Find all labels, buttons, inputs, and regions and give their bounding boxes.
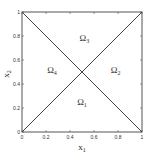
y-tick-label: 1 bbox=[17, 9, 20, 15]
y-tick-label: 0.4 bbox=[13, 81, 20, 87]
x-tick-label: 0.6 bbox=[91, 134, 98, 140]
y-axis-label-sub: 2 bbox=[6, 70, 12, 73]
x-axis-label: x1 bbox=[78, 142, 86, 153]
x-axis-label-sub: 1 bbox=[83, 147, 86, 153]
y-axis-label: x2 bbox=[1, 70, 12, 78]
region-label-omega-4: Ω4 bbox=[47, 65, 57, 76]
region-label-sub: 4 bbox=[54, 70, 57, 76]
x-tick-label: 0.8 bbox=[115, 134, 122, 140]
y-tick-label: 0.2 bbox=[13, 105, 20, 111]
series-group bbox=[22, 12, 142, 132]
region-label-sub: 2 bbox=[117, 70, 120, 76]
region-label-omega-3: Ω3 bbox=[80, 33, 90, 44]
chart: 00.20.40.60.81 00.20.40.60.81 Ω1Ω2Ω3Ω4 x… bbox=[0, 0, 149, 157]
region-label-omega-2: Ω2 bbox=[111, 65, 121, 76]
x-tick-label: 1 bbox=[141, 134, 144, 140]
y-axis-ticks: 00.20.40.60.81 bbox=[13, 9, 142, 135]
region-label-omega-1: Ω1 bbox=[77, 97, 87, 108]
region-label-sub: 1 bbox=[84, 102, 87, 108]
y-tick-label: 0 bbox=[17, 129, 20, 135]
x-axis-ticks: 00.20.40.60.81 bbox=[21, 12, 144, 140]
region-label-sub: 3 bbox=[86, 38, 89, 44]
x-tick-label: 0.2 bbox=[43, 134, 50, 140]
y-tick-label: 0.8 bbox=[13, 33, 20, 39]
y-tick-label: 0.6 bbox=[13, 57, 20, 63]
x-tick-label: 0.4 bbox=[67, 134, 74, 140]
x-tick-label: 0 bbox=[21, 134, 24, 140]
